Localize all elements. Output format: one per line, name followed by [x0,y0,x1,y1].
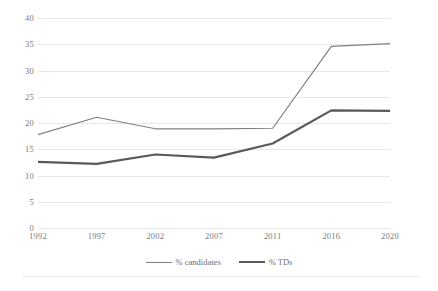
y-tick-label: 25 [4,93,34,102]
y-tick-label: 15 [4,145,34,154]
line-chart: 0510152025303540 19921997200220072011201… [0,0,438,291]
y-tick-label: 35 [4,40,34,49]
y-tick-label: 10 [4,172,34,181]
y-tick-label: 30 [4,67,34,76]
plot-area [38,18,390,228]
y-tick-label: 40 [4,14,34,23]
legend-item[interactable]: % TDs [239,258,293,267]
y-tick-label: 5 [4,198,34,207]
y-tick-label: 20 [4,119,34,128]
x-axis-tick-labels: 1992199720022007201120162020 [38,232,390,248]
x-tick-label: 2002 [146,232,164,241]
x-tick-label: 1992 [29,232,47,241]
legend-line-swatch [239,261,265,263]
legend-item[interactable]: % candidates [146,258,221,267]
x-tick-label: 1997 [88,232,106,241]
chart-legend: % candidates% TDs [0,258,438,267]
legend-label: % TDs [269,258,293,267]
gridline [38,228,390,229]
x-tick-label: 2007 [205,232,223,241]
series-layer [38,18,390,228]
legend-label: % candidates [176,258,221,267]
legend-line-swatch [146,262,172,263]
x-tick-label: 2020 [381,232,399,241]
x-tick-label: 2016 [322,232,340,241]
series-line [38,44,390,135]
x-tick-label: 2011 [264,232,282,241]
bottom-divider [22,276,420,277]
y-axis-tick-labels: 0510152025303540 [0,18,34,228]
